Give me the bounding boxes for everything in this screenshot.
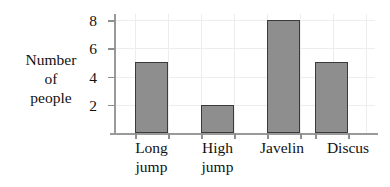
x-axis-label-high-jump: High jump [187,138,248,176]
x-axis-label-javelin-line-1: Javelin [249,138,315,157]
gridline-x-8 [366,14,367,133]
x-axis-label-discus-line-1: Discus [315,138,381,157]
gridline-y-6 [114,48,375,49]
y-tick-label-2: 2 [77,98,97,114]
x-axis-label-high-jump-line-1: High [187,138,248,157]
x-axis-label-long-jump-line-2: jump [121,157,182,176]
y-tick-label-4: 4 [77,70,97,86]
x-axis-label-high-jump-line-2: jump [187,157,248,176]
bar-javelin [267,20,300,133]
y-tick-mark-6 [108,48,115,50]
gridline-x-4 [234,14,235,133]
x-axis-label-discus: Discus [315,138,381,157]
y-tick-mark-8 [108,20,115,22]
y-tick-label-8: 8 [77,13,97,29]
y-tick-mark-4 [108,77,115,79]
x-axis-line [110,133,378,135]
bar-chart-figure: Number of people 2 4 6 8 [0,0,390,187]
y-tick-label-6: 6 [77,41,97,57]
x-axis-label-long-jump-line-1: Long [121,138,182,157]
x-axis-label-long-jump: Long jump [121,138,182,176]
gridline-x-6 [300,14,301,133]
bar-discus [315,62,348,133]
bar-high-jump [201,105,234,133]
y-tick-mark-2 [108,105,115,107]
bar-long-jump [135,62,168,133]
y-axis-line [114,14,116,135]
gridline-y-8 [114,20,375,21]
gridline-x-2 [168,14,169,133]
x-axis-label-javelin: Javelin [249,138,315,157]
